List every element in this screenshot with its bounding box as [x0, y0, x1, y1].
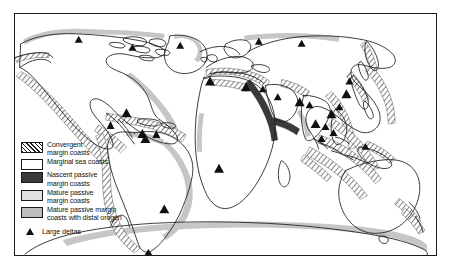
- legend-item-marginal-sea: Marginal sea coasts: [21, 158, 145, 170]
- legend-label-convergent: Convergent margin coasts: [47, 141, 90, 157]
- legend-swatch-mature-passive-orogen-icon: [21, 207, 43, 218]
- legend-item-mature-passive: Mature passive margin coasts: [21, 189, 145, 205]
- map-legend: Convergent margin coasts Marginal sea co…: [21, 141, 145, 236]
- legend-label-nascent-passive: Nascent passive margin coasts: [47, 171, 97, 187]
- legend-swatch-marginal-sea-icon: [21, 159, 43, 170]
- legend-item-large-deltas: Large deltas: [26, 227, 145, 236]
- legend-label-marginal-sea: Marginal sea coasts: [47, 158, 108, 166]
- legend-swatch-mature-passive-icon: [21, 190, 43, 201]
- legend-item-nascent-passive: Nascent passive margin coasts: [21, 171, 145, 187]
- legend-item-convergent: Convergent margin coasts: [21, 141, 145, 157]
- legend-label-large-deltas: Large deltas: [42, 227, 81, 236]
- legend-item-mature-passive-orogen: Mature passive margin coasts with distal…: [21, 206, 145, 222]
- triangle-marker-icon: [26, 228, 34, 235]
- map-frame: Convergent margin coasts Marginal sea co…: [14, 13, 437, 256]
- legend-swatch-nascent-passive-icon: [21, 172, 43, 183]
- legend-label-mature-passive: Mature passive margin coasts: [47, 189, 93, 205]
- figure-root: Convergent margin coasts Marginal sea co…: [0, 0, 454, 270]
- legend-label-mature-passive-orogen: Mature passive margin coasts with distal…: [47, 206, 122, 222]
- legend-swatch-convergent-icon: [21, 142, 43, 153]
